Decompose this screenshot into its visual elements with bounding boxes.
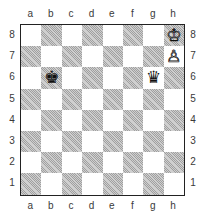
square-h5[interactable] bbox=[164, 89, 184, 110]
square-a2[interactable] bbox=[21, 152, 41, 173]
square-g8[interactable] bbox=[143, 25, 163, 46]
square-g5[interactable] bbox=[143, 89, 163, 110]
square-c8[interactable] bbox=[62, 25, 82, 46]
file-label-h: h bbox=[163, 8, 184, 20]
square-h8[interactable]: ♔ bbox=[164, 25, 184, 46]
rank-label-3: 3 bbox=[6, 135, 18, 147]
square-b2[interactable] bbox=[41, 152, 61, 173]
square-b7[interactable] bbox=[41, 46, 61, 67]
file-label-f: f bbox=[122, 8, 143, 20]
square-e1[interactable] bbox=[103, 173, 123, 194]
square-e4[interactable] bbox=[103, 110, 123, 131]
rank-label-5: 5 bbox=[187, 93, 199, 105]
square-b4[interactable] bbox=[41, 110, 61, 131]
square-g7[interactable] bbox=[143, 46, 163, 67]
file-label-b: b bbox=[40, 200, 61, 212]
rank-label-8: 8 bbox=[187, 29, 199, 41]
chess-board: ♔♙♚♛ bbox=[20, 24, 185, 196]
rank-label-6: 6 bbox=[187, 71, 199, 83]
square-a4[interactable] bbox=[21, 110, 41, 131]
square-g1[interactable] bbox=[143, 173, 163, 194]
rank-label-1: 1 bbox=[6, 177, 18, 189]
square-c6[interactable] bbox=[62, 67, 82, 88]
square-a7[interactable] bbox=[21, 46, 41, 67]
square-h3[interactable] bbox=[164, 131, 184, 152]
square-e5[interactable] bbox=[103, 89, 123, 110]
square-c3[interactable] bbox=[62, 131, 82, 152]
square-b8[interactable] bbox=[41, 25, 61, 46]
square-c7[interactable] bbox=[62, 46, 82, 67]
black-queen-icon[interactable]: ♛ bbox=[146, 69, 161, 86]
rank-label-8: 8 bbox=[6, 29, 18, 41]
square-f5[interactable] bbox=[123, 89, 143, 110]
square-a5[interactable] bbox=[21, 89, 41, 110]
square-f2[interactable] bbox=[123, 152, 143, 173]
square-f1[interactable] bbox=[123, 173, 143, 194]
file-label-d: d bbox=[81, 200, 102, 212]
file-label-b: b bbox=[40, 8, 61, 20]
square-a6[interactable] bbox=[21, 67, 41, 88]
square-a3[interactable] bbox=[21, 131, 41, 152]
square-h7[interactable]: ♙ bbox=[164, 46, 184, 67]
square-e8[interactable] bbox=[103, 25, 123, 46]
square-g2[interactable] bbox=[143, 152, 163, 173]
rank-label-7: 7 bbox=[187, 50, 199, 62]
file-label-c: c bbox=[61, 200, 82, 212]
white-king-icon[interactable]: ♔ bbox=[166, 27, 181, 44]
rank-label-2: 2 bbox=[187, 156, 199, 168]
square-d3[interactable] bbox=[82, 131, 102, 152]
square-d4[interactable] bbox=[82, 110, 102, 131]
square-g4[interactable] bbox=[143, 110, 163, 131]
square-d5[interactable] bbox=[82, 89, 102, 110]
square-f6[interactable] bbox=[123, 67, 143, 88]
white-pawn-icon[interactable]: ♙ bbox=[166, 48, 181, 65]
square-b1[interactable] bbox=[41, 173, 61, 194]
square-b6[interactable]: ♚ bbox=[41, 67, 61, 88]
rank-label-3: 3 bbox=[187, 135, 199, 147]
rank-label-4: 4 bbox=[6, 114, 18, 126]
rank-label-1: 1 bbox=[187, 177, 199, 189]
file-label-f: f bbox=[122, 200, 143, 212]
square-c5[interactable] bbox=[62, 89, 82, 110]
rank-label-2: 2 bbox=[6, 156, 18, 168]
square-f4[interactable] bbox=[123, 110, 143, 131]
rank-label-4: 4 bbox=[187, 114, 199, 126]
square-h6[interactable] bbox=[164, 67, 184, 88]
square-e2[interactable] bbox=[103, 152, 123, 173]
file-label-g: g bbox=[142, 8, 163, 20]
square-c4[interactable] bbox=[62, 110, 82, 131]
square-a1[interactable] bbox=[21, 173, 41, 194]
black-king-icon[interactable]: ♚ bbox=[44, 69, 59, 86]
square-d6[interactable] bbox=[82, 67, 102, 88]
square-g6[interactable]: ♛ bbox=[143, 67, 163, 88]
square-d7[interactable] bbox=[82, 46, 102, 67]
square-b3[interactable] bbox=[41, 131, 61, 152]
square-f3[interactable] bbox=[123, 131, 143, 152]
square-c1[interactable] bbox=[62, 173, 82, 194]
square-d1[interactable] bbox=[82, 173, 102, 194]
file-label-d: d bbox=[81, 8, 102, 20]
square-d2[interactable] bbox=[82, 152, 102, 173]
square-f7[interactable] bbox=[123, 46, 143, 67]
square-g3[interactable] bbox=[143, 131, 163, 152]
rank-label-6: 6 bbox=[6, 71, 18, 83]
file-label-h: h bbox=[163, 200, 184, 212]
square-e6[interactable] bbox=[103, 67, 123, 88]
square-a8[interactable] bbox=[21, 25, 41, 46]
square-f8[interactable] bbox=[123, 25, 143, 46]
square-h1[interactable] bbox=[164, 173, 184, 194]
square-c2[interactable] bbox=[62, 152, 82, 173]
square-e7[interactable] bbox=[103, 46, 123, 67]
square-b5[interactable] bbox=[41, 89, 61, 110]
file-label-c: c bbox=[61, 8, 82, 20]
file-label-a: a bbox=[20, 8, 41, 20]
file-label-g: g bbox=[142, 200, 163, 212]
file-label-e: e bbox=[102, 8, 123, 20]
file-label-a: a bbox=[20, 200, 41, 212]
square-e3[interactable] bbox=[103, 131, 123, 152]
rank-label-7: 7 bbox=[6, 50, 18, 62]
file-label-e: e bbox=[102, 200, 123, 212]
square-h2[interactable] bbox=[164, 152, 184, 173]
square-d8[interactable] bbox=[82, 25, 102, 46]
square-h4[interactable] bbox=[164, 110, 184, 131]
